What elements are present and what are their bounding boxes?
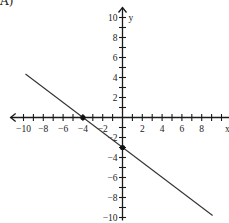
x-tick-label: 2 xyxy=(140,124,145,134)
y-tick-label: −2 xyxy=(107,133,117,143)
y-tick-label: 10 xyxy=(108,13,118,23)
y-tick-label: −6 xyxy=(107,173,117,183)
y-tick-label: −10 xyxy=(103,213,118,223)
plotted-point xyxy=(120,145,125,150)
x-tick-label: −10 xyxy=(16,124,31,134)
x-tick-label: −8 xyxy=(38,124,48,134)
y-tick-label: −8 xyxy=(107,193,117,203)
x-tick-label: 4 xyxy=(160,124,165,134)
graph-line xyxy=(25,74,212,216)
y-tick-label: 2 xyxy=(113,93,118,103)
y-tick-label: 4 xyxy=(113,73,118,83)
x-tick-label: 6 xyxy=(180,124,185,134)
x-tick-label: −4 xyxy=(78,124,88,134)
y-tick-label: 6 xyxy=(113,53,118,63)
x-axis-label: x xyxy=(225,124,229,134)
y-axis-label: y xyxy=(129,13,134,23)
y-tick-label: −4 xyxy=(107,153,117,163)
x-tick-label: 8 xyxy=(199,124,204,134)
coordinate-plane: −10−8−6−4−22468x108642−2−4−6−8−10y xyxy=(0,0,229,223)
y-tick-label: 8 xyxy=(113,33,118,43)
plotted-point xyxy=(80,115,85,120)
x-tick-label: −6 xyxy=(58,124,68,134)
